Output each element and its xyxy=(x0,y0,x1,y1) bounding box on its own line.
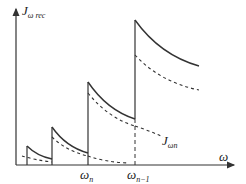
y-axis-label: Jω rec xyxy=(22,4,45,20)
j-omega-n-label: Jωn xyxy=(162,134,177,150)
step-curve-diagram xyxy=(0,0,246,184)
x-axis-label: ω xyxy=(219,150,228,163)
tick-omega-n-minus-1: ωn−1 xyxy=(127,168,150,184)
tick-omega-n: ωn xyxy=(80,168,93,184)
step-verticals xyxy=(27,20,135,165)
